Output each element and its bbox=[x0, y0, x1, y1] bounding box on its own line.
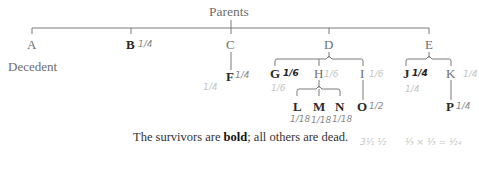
annotation-k: 1/4 bbox=[463, 69, 477, 79]
node-d: D bbox=[324, 38, 333, 51]
annotation-j-below: 1/4 bbox=[405, 84, 419, 94]
annotation-calc-2: ¹⁄₃ × ¹⁄₃ = ¹⁄₂₄ bbox=[405, 137, 461, 147]
caption-prefix: The survivors are bbox=[133, 130, 224, 144]
node-g: G bbox=[270, 67, 280, 80]
caption-suffix: ; all others are dead. bbox=[247, 130, 348, 144]
annotation-c: 1/4 bbox=[203, 82, 217, 92]
node-e: E bbox=[425, 38, 433, 51]
node-c: C bbox=[226, 38, 235, 51]
annotation-g-below: 1/6 bbox=[271, 83, 285, 93]
annotation-o: 1/2 bbox=[369, 101, 383, 111]
node-f: F bbox=[226, 70, 234, 83]
node-a: A bbox=[27, 38, 36, 51]
annotation-j: 1/4 bbox=[412, 68, 428, 78]
node-n: N bbox=[335, 100, 344, 113]
annotation-b: 1/4 bbox=[138, 39, 152, 49]
node-k: K bbox=[446, 67, 455, 80]
decedent-label: Decedent bbox=[8, 60, 57, 73]
node-i: I bbox=[360, 67, 364, 80]
node-h: H bbox=[314, 67, 323, 80]
annotation-l: 1/18 bbox=[290, 114, 310, 124]
caption-bold: bold bbox=[224, 130, 248, 144]
annotation-f: 1/4 bbox=[235, 70, 249, 80]
node-j: J bbox=[403, 67, 410, 80]
annotation-m: 1/18 bbox=[311, 115, 331, 125]
node-m: M bbox=[313, 100, 325, 113]
annotation-calc-1: 3¹⁄₁ ¹⁄₂ bbox=[360, 137, 386, 147]
node-p: P bbox=[446, 100, 454, 113]
node-o: O bbox=[357, 100, 367, 113]
parents-title: Parents bbox=[209, 5, 249, 18]
node-b: B bbox=[126, 38, 135, 51]
annotation-i: 1/6 bbox=[369, 69, 383, 79]
annotation-g: 1/6 bbox=[283, 68, 299, 78]
annotation-n: 1/18 bbox=[332, 114, 352, 124]
annotation-h: 1/6 bbox=[324, 69, 338, 79]
node-l: L bbox=[293, 100, 302, 113]
caption: The survivors are bold; all others are d… bbox=[133, 130, 348, 145]
annotation-p: 1/4 bbox=[456, 101, 470, 111]
